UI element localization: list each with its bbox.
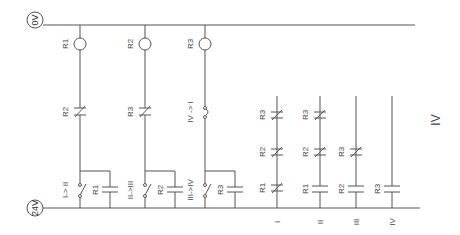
side-label: IV bbox=[429, 114, 443, 125]
coil-label: R2 bbox=[126, 38, 135, 49]
output-label: II bbox=[316, 220, 325, 224]
contact-label: R3 bbox=[258, 109, 267, 120]
ladder-diagram: 0V 24V R1 R2 I-> II R1 R2 R3 bbox=[0, 0, 460, 235]
output-i: R3 R2 R1 I bbox=[258, 96, 283, 223]
branch-r1: R1 R2 I-> II R1 bbox=[61, 25, 118, 208]
coil-icon bbox=[199, 38, 211, 50]
cap-label: R3 bbox=[216, 184, 225, 195]
output-iv: R3 IV bbox=[373, 96, 400, 226]
contact-label: R2 bbox=[61, 106, 70, 117]
output-label: III bbox=[352, 219, 361, 226]
contact-label: R3 bbox=[373, 183, 382, 194]
cap-label: R2 bbox=[156, 184, 165, 195]
contact-label: R3 bbox=[126, 106, 135, 117]
switch-label: II->III bbox=[126, 181, 135, 199]
branch-r2: R2 R3 II->III R2 bbox=[126, 25, 183, 208]
coil-label: R3 bbox=[186, 38, 195, 49]
coil-icon bbox=[74, 38, 86, 50]
output-ii: R3 R2 R1 II bbox=[301, 96, 328, 224]
output-iii: R3 R2 III bbox=[337, 96, 364, 225]
top-rail: 0V bbox=[27, 12, 415, 28]
contact-label: R3 bbox=[337, 146, 346, 157]
branch-r3: R3 IV -> I III->IV R3 bbox=[186, 25, 243, 208]
output-label: IV bbox=[388, 218, 397, 226]
contact-label: R2 bbox=[301, 146, 310, 157]
contact-label: R3 bbox=[301, 109, 310, 120]
cap-label: R1 bbox=[91, 184, 100, 195]
contact-label: R2 bbox=[337, 183, 346, 194]
contact-label: R2 bbox=[258, 146, 267, 157]
bottom-rail: 24V bbox=[27, 200, 420, 216]
contact-label: R1 bbox=[301, 183, 310, 194]
rail-0v-label: 0V bbox=[30, 14, 40, 25]
output-label: I bbox=[273, 221, 282, 223]
rail-24v-label: 24V bbox=[30, 200, 40, 216]
contact-label: R1 bbox=[258, 182, 267, 193]
switch-label: I-> II bbox=[61, 182, 70, 198]
switch-label: III->IV bbox=[186, 179, 195, 201]
contact-label: IV -> I bbox=[186, 101, 195, 123]
coil-label: R1 bbox=[61, 38, 70, 49]
circuit-svg: 0V 24V R1 R2 I-> II R1 R2 R3 bbox=[0, 0, 460, 235]
coil-icon bbox=[139, 38, 151, 50]
